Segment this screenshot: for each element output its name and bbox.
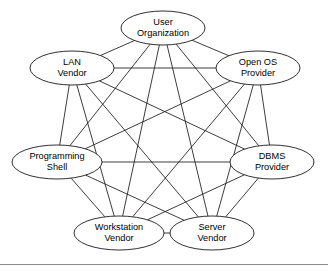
edge-user-organization--lan-vendor: [100, 41, 134, 56]
node-label-dbms-provider: DBMS: [259, 151, 286, 161]
node-label-open-os-provider: Provider: [241, 68, 275, 78]
node-label-server-vendor: Server: [198, 222, 225, 232]
node-label-user-organization: Organization: [137, 28, 189, 38]
edge-user-organization--server-vendor: [167, 45, 208, 216]
footer-horizontal-rule: [0, 264, 328, 265]
node-dbms-provider[interactable]: DBMSProvider: [230, 145, 314, 179]
graph-canvas: UserOrganizationOpen OSProviderDBMSProvi…: [0, 0, 328, 273]
edge-open-os-provider--dbms-provider: [261, 85, 270, 145]
node-open-os-provider[interactable]: Open OSProvider: [216, 51, 300, 85]
edge-user-organization--open-os-provider: [192, 40, 229, 55]
node-label-dbms-provider: Provider: [255, 162, 289, 172]
node-label-server-vendor: Vendor: [197, 233, 226, 243]
node-label-workstation-vendor: Vendor: [104, 233, 133, 243]
edge-open-os-provider--programming-shell: [85, 81, 230, 149]
node-label-programming-shell: Programming: [29, 151, 84, 161]
node-lan-vendor[interactable]: LANVendor: [30, 51, 114, 85]
diagram-root: UserOrganizationOpen OSProviderDBMSProvi…: [0, 0, 328, 273]
node-label-lan-vendor: Vendor: [57, 68, 86, 78]
node-label-programming-shell: Shell: [47, 162, 67, 172]
node-server-vendor[interactable]: ServerVendor: [170, 216, 254, 250]
node-label-open-os-provider: Open OS: [239, 57, 277, 67]
node-programming-shell[interactable]: ProgrammingShell: [12, 145, 102, 179]
edge-programming-shell--lan-vendor: [60, 85, 70, 145]
edge-user-organization--workstation-vendor: [123, 45, 160, 216]
nodes-group: UserOrganizationOpen OSProviderDBMSProvi…: [12, 11, 314, 250]
node-user-organization[interactable]: UserOrganization: [121, 11, 205, 45]
edge-workstation-vendor--programming-shell: [71, 178, 105, 217]
node-label-workstation-vendor: Workstation: [95, 222, 143, 232]
edge-dbms-provider--lan-vendor: [99, 81, 244, 149]
node-label-user-organization: User: [153, 17, 172, 27]
edge-dbms-provider--server-vendor: [226, 178, 259, 217]
node-workstation-vendor[interactable]: WorkstationVendor: [74, 216, 164, 250]
node-label-lan-vendor: LAN: [63, 57, 81, 67]
